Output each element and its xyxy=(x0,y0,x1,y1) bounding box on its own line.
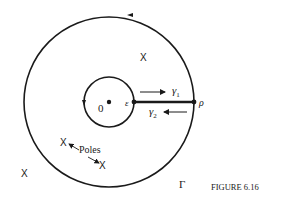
pole-marker-outside: X xyxy=(21,168,28,179)
origin-label: 0 xyxy=(98,102,104,114)
pole-marker-upper: X xyxy=(140,52,147,63)
pole-marker-lower: X xyxy=(99,160,106,171)
rho-label: ρ xyxy=(198,97,204,108)
contour-diagram: 0 ε ρ γ1 γ2 X X X X Poles Γ FIGURE 6.16 xyxy=(0,0,286,208)
pole-marker-left: X xyxy=(60,137,67,148)
poles-label: Poles xyxy=(79,144,101,155)
outer-direction-arrow-icon xyxy=(127,13,133,17)
inner-direction-arrow-icon xyxy=(82,100,86,106)
gamma2-label: γ2 xyxy=(149,105,157,120)
rho-point xyxy=(192,100,197,105)
poles-arrow-lower-icon xyxy=(88,157,99,163)
epsilon-point xyxy=(132,100,137,105)
epsilon-label: ε xyxy=(125,98,129,108)
poles-arrow-upper-icon xyxy=(69,144,79,150)
contour-gamma-label: Γ xyxy=(179,178,185,190)
gamma1-label: γ1 xyxy=(172,84,180,99)
figure-caption: FIGURE 6.16 xyxy=(211,182,259,192)
origin-point xyxy=(107,100,111,104)
